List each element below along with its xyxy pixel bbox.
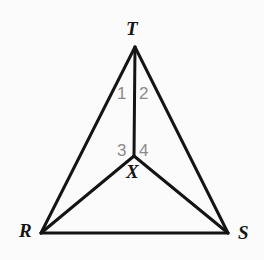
segment-ts <box>135 47 228 233</box>
geometry-figure: T R S X 1 2 3 4 <box>0 0 264 260</box>
segment-tx <box>134 47 135 156</box>
angle-label-2: 2 <box>139 85 148 102</box>
vertex-label-t: T <box>126 19 138 38</box>
vertex-label-s: S <box>238 223 249 242</box>
geometry-canvas <box>0 0 264 260</box>
segment-xs <box>134 156 228 233</box>
segment-xr <box>41 156 134 233</box>
angle-label-4: 4 <box>139 142 148 159</box>
vertex-label-x: X <box>126 162 139 181</box>
angle-label-1: 1 <box>117 85 126 102</box>
vertex-label-r: R <box>19 221 32 240</box>
segment-tr <box>41 47 135 233</box>
angle-label-3: 3 <box>117 142 126 159</box>
